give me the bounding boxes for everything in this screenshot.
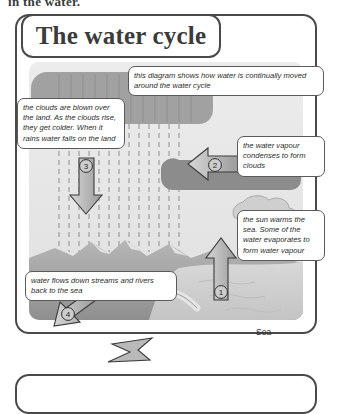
arrow-runoff-into-sea [108,338,152,362]
note-clouds: the clouds are blown over the land. As t… [17,98,125,149]
page-title-text: The water cycle [36,22,207,50]
note-runoff: water flows down streams and rivers back… [25,271,177,301]
clipped-top-text: in the water. [8,0,80,10]
note-evaporation: the sun warms the sea. Some of the water… [237,210,325,261]
page-title: The water cycle [21,14,221,58]
note-intro: this diagram shows how water is continua… [128,66,324,96]
note-condensation: the water vapour condenses to form cloud… [237,136,325,177]
next-panel [15,374,317,414]
sea-label: Sea [256,327,271,337]
